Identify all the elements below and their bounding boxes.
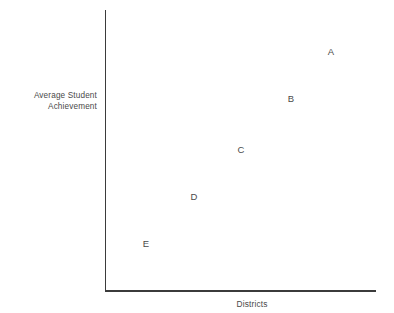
data-point-label-e: E [143, 239, 150, 249]
plot-axes [0, 0, 394, 313]
data-point-label-c: C [237, 145, 244, 155]
data-point-label-b: B [288, 94, 295, 104]
data-point-label-a: A [328, 47, 335, 57]
y-axis-title: Average Student Achievement [0, 90, 97, 112]
scatter-chart-figure: Average Student Achievement Districts A … [0, 0, 394, 313]
x-axis-title: Districts [236, 299, 267, 309]
data-point-label-d: D [190, 192, 197, 202]
